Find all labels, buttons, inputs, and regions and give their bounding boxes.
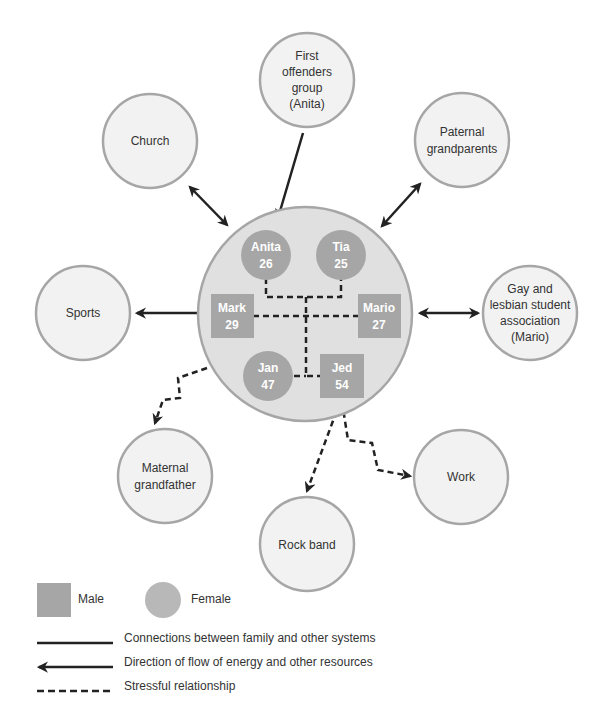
member-age: 29	[225, 318, 239, 332]
legend-male-label: Male	[78, 592, 104, 606]
stressful-line-work	[342, 402, 410, 476]
legend-male-square	[37, 583, 71, 617]
legend-female-circle	[145, 582, 181, 618]
system-label: Rock band	[278, 538, 335, 552]
member-mark: Mark29	[211, 294, 254, 338]
stressful-line-maternal-grandfather	[155, 368, 207, 423]
legend-female-label: Female	[191, 592, 231, 606]
system-first-offenders: Firstoffendersgroup(Anita)	[260, 33, 354, 127]
system-label: Sports	[66, 306, 101, 320]
member-anita: Anita26	[241, 230, 291, 280]
member-tia: Tia25	[316, 230, 366, 280]
system-sports: Sports	[36, 266, 130, 360]
member-mario: Mario27	[358, 294, 401, 338]
member-age: 26	[259, 257, 273, 271]
member-age: 54	[335, 378, 349, 392]
two-way-arrow-church	[190, 187, 227, 225]
member-jan: Jan47	[243, 351, 293, 401]
legend-connections-label: Connections between family and other sys…	[124, 631, 375, 645]
member-name: Tia	[332, 240, 349, 254]
two-way-arrow-paternal-grandparents	[382, 184, 420, 226]
system-paternal-grandparents: Paternalgrandparents	[415, 93, 509, 187]
system-church: Church	[103, 94, 197, 188]
member-name: Jan	[258, 361, 279, 375]
system-label: Work	[447, 470, 476, 484]
system-work: Work	[414, 430, 508, 524]
member-name: Mario	[363, 301, 395, 315]
member-name: Anita	[251, 240, 281, 254]
legend: Male Female Connections between family a…	[37, 582, 375, 693]
member-name: Mark	[218, 301, 246, 315]
system-gay-lesbian-association: Gay andlesbian studentassociation(Mario)	[483, 266, 577, 360]
member-age: 27	[372, 318, 386, 332]
system-label: Church	[131, 134, 170, 148]
member-age: 47	[261, 378, 275, 392]
legend-flow-label: Direction of flow of energy and other re…	[124, 655, 373, 669]
ecomap-diagram: Firstoffendersgroup(Anita) Church Patern…	[0, 0, 609, 721]
family-circle: Anita26 Tia25 Mark29 Mario27 Jan47 Jed54	[198, 207, 412, 421]
legend-stressful-label: Stressful relationship	[124, 679, 236, 693]
system-rock-band: Rock band	[260, 497, 354, 591]
member-name: Jed	[332, 361, 353, 375]
system-maternal-grandfather: Maternalgrandfather	[118, 429, 212, 523]
member-jed: Jed54	[320, 354, 364, 398]
flow-arrow-first-offenders	[278, 133, 303, 218]
member-age: 25	[334, 257, 348, 271]
